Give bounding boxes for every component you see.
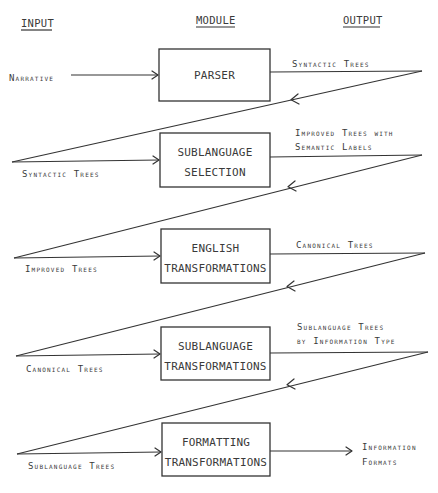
module-label-line-1: SUBLANGUAGE (177, 146, 252, 159)
output-line (270, 155, 422, 157)
output-label-line-1: Sublanguage Trees (297, 322, 384, 332)
input-improved-trees: Improved Trees (14, 252, 160, 274)
module-sublanguage-transformations: SUBLANGUAGE TRANSFORMATIONS (161, 327, 270, 380)
header-output: OUTPUT (343, 14, 383, 26)
output-label-line-2: Formats (362, 457, 398, 467)
module-formatting-transformations: FORMATTING TRANSFORMATIONS (162, 423, 270, 476)
module-parser: PARSER (159, 49, 270, 101)
module-english-transformations: ENGLISH TRANSFORMATIONS (161, 229, 270, 283)
module-label-line-2: TRANSFORMATIONS (164, 262, 266, 275)
output-label-line-2: Semantic Labels (295, 142, 373, 152)
output-canonical-trees: Canonical Trees (270, 240, 425, 254)
column-headers: INPUT MODULE OUTPUT (21, 14, 383, 30)
input-label: Syntactic Trees (22, 169, 100, 179)
module-label-line-2: TRANSFORMATIONS (165, 456, 267, 469)
input-canonical-trees: Canonical Trees (16, 350, 160, 374)
output-line (270, 352, 428, 353)
module-label-line-2: SELECTION (184, 166, 245, 179)
module-sublanguage-selection: SUBLANGUAGE SELECTION (160, 133, 270, 187)
input-label: Canonical Trees (26, 364, 104, 374)
output-label-line-1: Improved Trees with (295, 128, 394, 138)
input-narrative: Narrative (9, 71, 158, 83)
output-improved-trees-semantic: Improved Trees with Semantic Labels (270, 128, 422, 157)
output-label-line-1: Information (362, 442, 417, 452)
input-arrow (12, 160, 159, 162)
header-input: INPUT (21, 17, 54, 29)
output-line (270, 253, 425, 254)
input-arrow (16, 354, 160, 356)
output-line (270, 71, 422, 72)
output-information-formats: Information Formats (270, 442, 417, 467)
pipeline-diagram: INPUT MODULE OUTPUT PARSER Narrative Syn… (0, 0, 438, 493)
input-sublanguage-trees: Sublanguage Trees (17, 448, 161, 471)
header-module: MODULE (196, 14, 236, 26)
output-sublanguage-trees-by-type: Sublanguage Trees by Information Type (270, 322, 428, 353)
input-label: Narrative (9, 73, 54, 83)
output-syntactic-trees: Syntactic Trees (270, 59, 422, 72)
module-label: PARSER (194, 69, 235, 82)
output-label-line-2: by Information Type (297, 336, 396, 346)
output-label: Syntactic Trees (292, 59, 370, 69)
input-label: Sublanguage Trees (28, 461, 115, 471)
module-label-line-1: SUBLANGUAGE (178, 340, 253, 353)
arrowhead-left-icon (287, 379, 295, 389)
input-label: Improved Trees (25, 264, 98, 274)
module-label-line-2: TRANSFORMATIONS (164, 360, 266, 373)
module-label-line-1: ENGLISH (192, 242, 240, 255)
module-label-line-1: FORMATTING (182, 436, 250, 449)
output-label: Canonical Trees (296, 240, 374, 250)
input-syntactic-trees: Syntactic Trees (12, 156, 159, 179)
input-arrow (14, 256, 160, 258)
arrowhead-left-icon (288, 181, 296, 191)
input-arrow (17, 452, 161, 454)
